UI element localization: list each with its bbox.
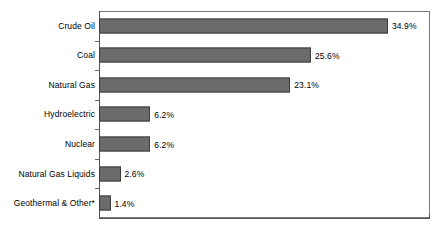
bar-and-value: 2.6% xyxy=(99,166,144,181)
bar-row: Natural Gas Liquids2.6% xyxy=(0,159,443,189)
bar xyxy=(99,107,150,122)
category-label: Natural Gas xyxy=(49,80,95,90)
bar-row: Natural Gas23.1% xyxy=(0,70,443,100)
bar-row: Geothermal & Other*1.4% xyxy=(0,188,443,218)
bar-row: Hydroelectric6.2% xyxy=(0,100,443,130)
bar-row: Crude Oil34.9% xyxy=(0,11,443,41)
bar xyxy=(99,166,121,181)
category-label: Hydroelectric xyxy=(44,109,95,119)
bar-and-value: 23.1% xyxy=(99,77,319,92)
category-label: Crude Oil xyxy=(58,21,95,31)
category-tick xyxy=(95,129,99,130)
category-tick xyxy=(95,41,99,42)
value-axis-line xyxy=(99,218,430,219)
category-label: Geothermal & Other* xyxy=(14,198,95,208)
category-label: Coal xyxy=(77,50,95,60)
category-label: Nuclear xyxy=(65,139,95,149)
bar-and-value: 34.9% xyxy=(99,18,417,33)
bar-value-label: 34.9% xyxy=(392,21,417,31)
bar-chart: Crude Oil34.9%Coal25.6%Natural Gas23.1%H… xyxy=(0,0,443,232)
bar-value-label: 2.6% xyxy=(125,169,145,179)
bar-row: Coal25.6% xyxy=(0,41,443,71)
bar-rows: Crude Oil34.9%Coal25.6%Natural Gas23.1%H… xyxy=(0,11,443,218)
category-tick xyxy=(95,188,99,189)
bar-and-value: 6.2% xyxy=(99,137,174,152)
bar-value-label: 1.4% xyxy=(115,198,135,208)
bar-value-label: 23.1% xyxy=(294,80,319,90)
bar xyxy=(99,137,150,152)
category-tick xyxy=(95,70,99,71)
bar-and-value: 25.6% xyxy=(99,48,340,63)
bar xyxy=(99,196,111,211)
bar-value-label: 25.6% xyxy=(315,50,340,60)
bar-and-value: 1.4% xyxy=(99,196,134,211)
bar-row: Nuclear6.2% xyxy=(0,129,443,159)
bar-value-label: 6.2% xyxy=(154,139,174,149)
bar-and-value: 6.2% xyxy=(99,107,174,122)
category-label: Natural Gas Liquids xyxy=(18,169,95,179)
bar xyxy=(99,18,388,33)
category-tick xyxy=(95,100,99,101)
bar-value-label: 6.2% xyxy=(154,109,174,119)
bar xyxy=(99,77,290,92)
bar xyxy=(99,48,311,63)
category-tick xyxy=(95,159,99,160)
